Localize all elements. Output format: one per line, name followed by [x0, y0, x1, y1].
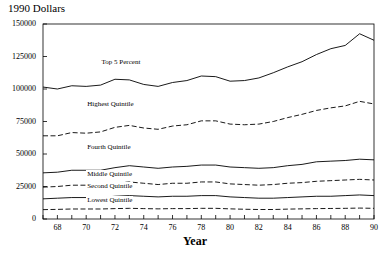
y-axis-tick-label: 50000: [0, 149, 36, 158]
x-axis-tick-label: 68: [43, 223, 71, 232]
x-axis-tick-label: 78: [187, 223, 215, 232]
y-axis-tick-label: 100000: [0, 84, 36, 93]
chart-plot-area: [0, 0, 390, 256]
series-label-1: Highest Quintile: [86, 100, 134, 108]
x-axis-tick-label: 80: [216, 223, 244, 232]
y-axis-tick-label: 150000: [0, 19, 36, 28]
y-axis-tick-label: 125000: [0, 52, 36, 61]
x-axis-tick-label: 72: [101, 223, 129, 232]
income-quintile-line-chart: 1990 Dollars Year 0250005000075000100000…: [0, 0, 390, 256]
series-line-0: [43, 34, 374, 89]
x-axis-tick-label: 88: [331, 223, 359, 232]
series-label-5: Lowest Quintile: [86, 196, 133, 204]
series-label-0: Top 5 Percent: [101, 58, 142, 66]
x-axis-tick-label: 76: [159, 223, 187, 232]
x-axis-tick-label: 90: [360, 223, 388, 232]
x-axis-tick-label: 70: [72, 223, 100, 232]
series-label-3: Middle Quintile: [86, 170, 133, 178]
x-axis-tick-label: 82: [245, 223, 273, 232]
x-axis-tick-label: 74: [130, 223, 158, 232]
y-axis-tick-label: 0: [0, 214, 36, 223]
x-axis-tick-label: 86: [302, 223, 330, 232]
y-axis-tick-label: 25000: [0, 182, 36, 191]
series-line-5: [43, 208, 374, 210]
plot-frame: [43, 24, 374, 219]
series-label-4: Second Quintile: [86, 182, 133, 190]
x-axis-tick-label: 84: [274, 223, 302, 232]
series-label-2: Fourth Quintile: [86, 143, 131, 151]
y-axis-tick-label: 75000: [0, 117, 36, 126]
